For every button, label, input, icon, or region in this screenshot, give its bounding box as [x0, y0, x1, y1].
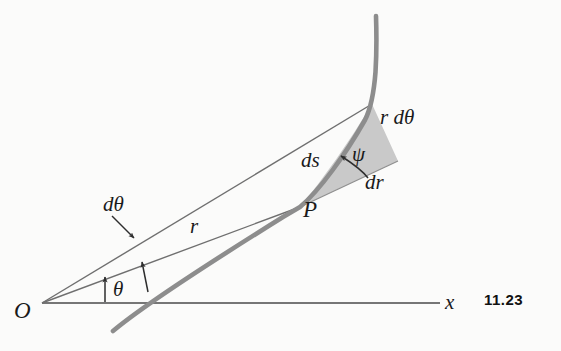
label-dr: dr	[365, 172, 384, 193]
label-point-p: P	[303, 198, 317, 221]
figure-container: O x P θ dθ r ds r dθ dr ψ 11.23	[0, 0, 561, 351]
label-axis-x: x	[445, 292, 454, 313]
label-radius-r: r	[190, 216, 198, 237]
label-psi: ψ	[352, 144, 365, 165]
label-d-theta: dθ	[103, 194, 124, 215]
figure-number: 11.23	[484, 291, 523, 308]
label-theta: θ	[113, 279, 123, 300]
d-theta-wedge-arrow	[142, 262, 148, 292]
d-theta-leader-arrow	[112, 216, 134, 238]
label-r-d-theta: r dθ	[380, 107, 414, 128]
ray-r-plus-dr	[42, 104, 372, 303]
label-ds: ds	[301, 150, 320, 171]
label-origin: O	[14, 299, 31, 322]
diagram-canvas	[0, 0, 561, 351]
